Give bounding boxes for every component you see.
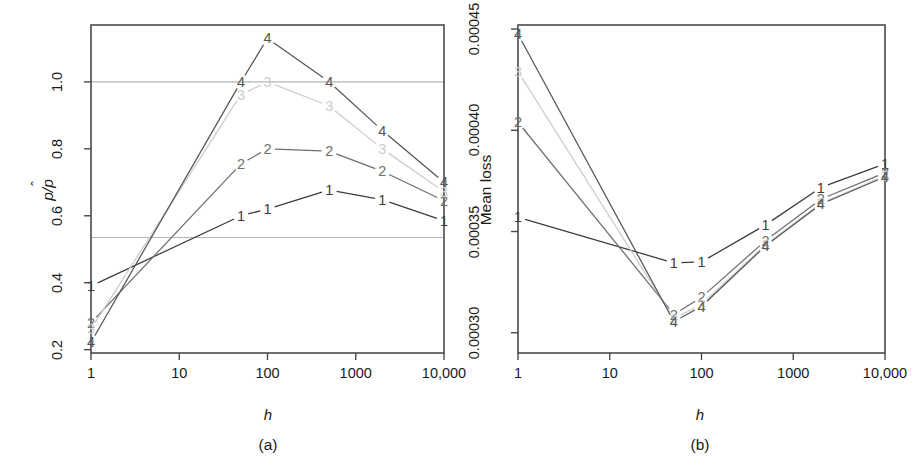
- point-marker: 1: [440, 213, 448, 229]
- point-marker: 3: [514, 64, 522, 80]
- y-tick-label: 0.8: [49, 139, 65, 159]
- series-segment: [335, 87, 377, 125]
- series-segment: [337, 191, 375, 198]
- series-1: 111111: [87, 182, 448, 294]
- point-marker: 3: [378, 141, 386, 157]
- panel-a: 111111222222333333444444 p/p̂ h (a) 1101…: [0, 0, 458, 465]
- point-marker: 4: [378, 123, 386, 139]
- series-segment: [772, 208, 815, 240]
- point-marker: 1: [378, 192, 386, 208]
- point-marker: 4: [440, 174, 448, 190]
- y-tick-label: 0.00040: [466, 104, 482, 156]
- point-marker: 1: [87, 278, 95, 294]
- point-marker: 4: [325, 74, 333, 90]
- point-marker: 3: [263, 74, 271, 90]
- series-segment: [772, 204, 815, 236]
- point-marker: 1: [237, 208, 245, 224]
- point-marker: 1: [514, 209, 522, 225]
- y-tick-label: 1.0: [49, 72, 65, 92]
- panel-b-caption: (b): [691, 436, 710, 454]
- series-segment: [772, 192, 815, 221]
- series-segment: [275, 149, 322, 151]
- point-marker: 4: [817, 196, 825, 212]
- point-marker: 4: [881, 169, 889, 185]
- series-segment: [388, 135, 438, 177]
- y-tick-label: 0.00030: [466, 307, 482, 359]
- x-tick-label: 1: [87, 365, 95, 381]
- series-segment: [525, 219, 666, 260]
- series-segment: [274, 43, 323, 78]
- y-tick-label: 0.6: [49, 206, 65, 226]
- point-marker: 4: [87, 334, 95, 350]
- point-marker: 1: [670, 255, 678, 271]
- panel-b-x-axis-title: h: [696, 406, 704, 423]
- point-marker: 1: [325, 182, 333, 198]
- x-tick-label: 1: [514, 365, 522, 381]
- y-tick-label: 0.00045: [466, 3, 482, 55]
- point-marker: 4: [237, 74, 245, 90]
- series-segment: [389, 202, 436, 218]
- series-segment: [389, 174, 437, 197]
- series-segment: [772, 209, 815, 242]
- series-segment: [96, 169, 236, 317]
- y-tick-label: 0.2: [49, 340, 65, 360]
- series-segment: [707, 251, 760, 301]
- y-tick-label: 0.4: [49, 273, 65, 293]
- series-segment: [523, 128, 669, 309]
- x-tick-label: 1000: [340, 365, 372, 381]
- x-tick-label: 10: [171, 365, 187, 381]
- series-segment: [98, 219, 234, 283]
- y-tick-label: 0.00035: [466, 205, 482, 257]
- series-segment: [248, 211, 260, 214]
- point-marker: 1: [697, 254, 705, 270]
- figure-container: 111111222222333333444444 p/p̂ h (a) 1101…: [0, 0, 916, 465]
- series-segment: [248, 85, 261, 91]
- series-segment: [275, 192, 322, 207]
- point-marker: 4: [263, 30, 271, 46]
- point-marker: 1: [263, 201, 271, 217]
- series-segment: [707, 250, 760, 300]
- series-segment: [522, 78, 670, 312]
- series-1: 111111: [514, 156, 889, 271]
- point-marker: 2: [237, 156, 245, 172]
- point-marker: 4: [670, 314, 678, 330]
- x-tick-label: 100: [255, 365, 279, 381]
- series-3: 333333: [514, 64, 889, 327]
- x-tick-label: 10,000: [863, 365, 907, 381]
- panel-a-caption: (a): [259, 436, 278, 454]
- point-marker: 2: [325, 143, 333, 159]
- x-tick-label: 1000: [777, 365, 809, 381]
- panel-b: 111111222222333333444444 Mean loss h (b)…: [458, 0, 916, 465]
- series-4: 444444: [514, 26, 889, 330]
- panel-a-x-axis-title: h: [264, 406, 272, 423]
- point-marker: 4: [697, 299, 705, 315]
- panel-a-plot: 111111222222333333444444: [0, 0, 458, 465]
- point-marker: 4: [762, 238, 770, 254]
- series-segment: [707, 246, 760, 293]
- point-marker: 2: [514, 114, 522, 130]
- point-marker: 1: [762, 217, 770, 233]
- series-2: 222222: [87, 141, 448, 331]
- panel-a-y-axis-title: p/p̂: [39, 179, 57, 201]
- series-segment: [336, 154, 375, 169]
- x-tick-label: 100: [689, 365, 713, 381]
- series-segment: [245, 45, 264, 76]
- point-marker: 2: [263, 141, 271, 157]
- x-tick-label: 10: [602, 365, 618, 381]
- point-marker: 3: [325, 98, 333, 114]
- panel-b-plot: 111111222222333333444444: [458, 0, 916, 465]
- series-2: 222222: [514, 114, 889, 322]
- series-segment: [247, 153, 261, 161]
- series-segment: [828, 176, 878, 197]
- series-segment: [522, 41, 671, 315]
- point-marker: 4: [514, 26, 522, 42]
- point-marker: 2: [378, 163, 386, 179]
- series-segment: [828, 180, 878, 201]
- series-segment: [274, 85, 322, 104]
- series-segment: [95, 88, 237, 335]
- series-segment: [335, 111, 376, 144]
